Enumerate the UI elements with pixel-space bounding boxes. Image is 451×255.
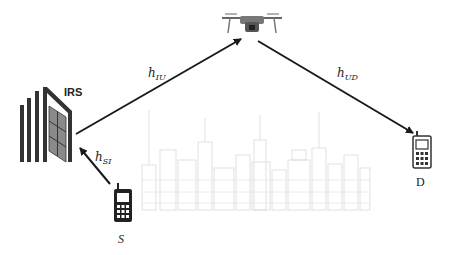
channel-symbol: h: [95, 150, 103, 164]
channel-subscript: UD: [345, 73, 358, 82]
source-label: S: [118, 232, 124, 247]
link-irs-to-uav: [76, 39, 241, 134]
channel-label-h-ud: hUD: [337, 66, 358, 82]
channel-symbol: h: [148, 66, 156, 80]
destination-label: D: [416, 175, 425, 190]
uav-drone-icon: [222, 14, 282, 33]
city-skyline-background: [142, 110, 370, 210]
diagram-canvas: [0, 0, 451, 255]
channel-symbol: h: [337, 66, 345, 80]
system-model-diagram: IRS hIU hUD hSI S D: [0, 0, 451, 255]
irs-label: IRS: [64, 86, 82, 98]
irs-building-icon: [20, 87, 72, 162]
channel-label-h-si: hSI: [95, 150, 111, 166]
source-phone-icon: [114, 183, 132, 222]
channel-subscript: IU: [156, 73, 166, 82]
link-uav-to-destination: [258, 41, 413, 133]
destination-phone-icon: [413, 131, 431, 168]
channel-label-h-iu: hIU: [148, 66, 166, 82]
channel-subscript: SI: [103, 157, 112, 166]
